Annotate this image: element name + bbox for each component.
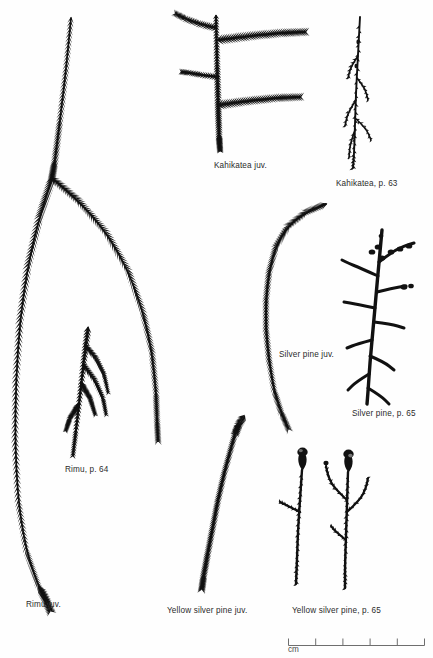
caption-rimu-adult: Rimu, p. 64 [65, 466, 109, 474]
scale-bar-unit-label: cm [288, 645, 299, 654]
caption-silver-pine-juv: Silver pine juv. [279, 351, 334, 359]
caption-silver-pine-adult: Silver pine, p. 65 [352, 410, 416, 418]
caption-rimu-juv: Rimu juv. [26, 601, 61, 609]
specimen-artwork [0, 0, 433, 658]
caption-kahikatea-juv: Kahikatea juv. [214, 162, 267, 170]
caption-yellow-silver-pine-juv: Yellow silver pine juv. [167, 607, 247, 615]
caption-yellow-silver-pine-adult: Yellow silver pine, p. 65 [292, 607, 381, 615]
caption-kahikatea-adult: Kahikatea, p. 63 [336, 180, 398, 188]
illustration-plate: Rimu juv. Rimu, p. 64 Kahikatea juv. Kah… [0, 0, 433, 658]
scale-bar [288, 638, 433, 652]
